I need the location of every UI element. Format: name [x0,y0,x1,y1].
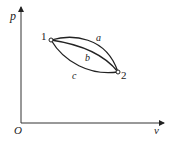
state-point-1 [49,38,53,42]
state-label-2: 2 [121,69,127,81]
state-label-1: 1 [41,30,47,42]
path-label-a: a [96,32,101,43]
path-label-b: b [85,52,90,63]
y-axis-label: p [9,9,16,23]
pv-diagram: p v O 1 2 a b c [0,0,174,151]
state-point-2 [116,70,120,74]
origin-label: O [14,124,22,136]
x-axis-label: v [154,124,159,136]
path-label-c: c [72,70,77,81]
